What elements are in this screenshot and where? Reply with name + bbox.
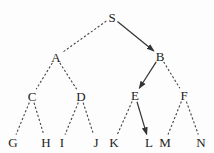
node-s: S bbox=[108, 10, 115, 25]
node-l: L bbox=[145, 135, 153, 150]
edge-f-n bbox=[186, 102, 198, 135]
edge-s-a bbox=[63, 21, 107, 52]
edge-b-e bbox=[139, 62, 156, 88]
tree-svg: SABCDEFGHIJKLMN bbox=[0, 0, 214, 153]
edge-e-k bbox=[117, 101, 132, 134]
node-m: M bbox=[159, 135, 171, 150]
edge-e-l bbox=[137, 102, 147, 135]
edge-c-g bbox=[16, 102, 29, 134]
node-n: N bbox=[196, 135, 206, 150]
edge-s-b bbox=[117, 21, 153, 51]
edge-a-d bbox=[60, 63, 77, 89]
node-h: H bbox=[41, 135, 50, 150]
edge-d-j bbox=[83, 103, 93, 135]
nodes-layer: SABCDEFGHIJKLMN bbox=[8, 10, 206, 150]
edge-b-f bbox=[164, 62, 180, 88]
edge-c-h bbox=[34, 103, 44, 135]
node-g: G bbox=[8, 135, 17, 150]
node-j: J bbox=[93, 135, 98, 150]
node-e: E bbox=[131, 88, 139, 103]
edge-f-m bbox=[168, 101, 181, 134]
node-i: I bbox=[60, 135, 64, 150]
node-f: F bbox=[180, 88, 187, 103]
node-d: D bbox=[76, 89, 85, 104]
edge-a-c bbox=[36, 63, 52, 89]
edges-layer bbox=[16, 21, 198, 135]
tree-diagram: SABCDEFGHIJKLMN bbox=[0, 0, 214, 153]
node-c: C bbox=[28, 89, 37, 104]
node-a: A bbox=[51, 50, 61, 65]
node-k: K bbox=[109, 135, 119, 150]
node-b: B bbox=[156, 49, 165, 64]
edge-d-i bbox=[65, 102, 78, 134]
